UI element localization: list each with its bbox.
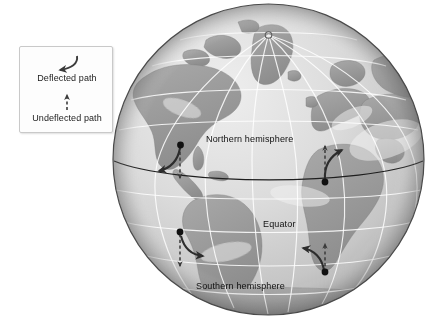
- figure-canvas: Northern hemisphere Equator Southern hem…: [0, 0, 434, 319]
- northern-hemisphere-label: Northern hemisphere: [206, 134, 293, 144]
- deflected-path-icon: [60, 56, 77, 70]
- southern-hemisphere-label: Southern hemisphere: [196, 281, 285, 291]
- globe-limb-shading: [113, 4, 424, 315]
- deflected-path-label: Deflected path: [20, 73, 114, 83]
- undeflected-path-label: Undeflected path: [20, 113, 114, 123]
- nh-south-origin-dot: [177, 142, 184, 149]
- path-legend: Deflected path Undeflected path: [19, 46, 113, 133]
- globe-surface: [113, 4, 434, 318]
- nh-north-origin-dot: [322, 179, 329, 186]
- sh-north-origin-dot: [322, 269, 329, 276]
- equator-label: Equator: [263, 219, 296, 229]
- sh-south-origin-dot: [177, 229, 184, 236]
